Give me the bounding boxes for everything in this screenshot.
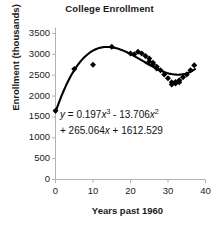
equation-part-4: + 1612.529 [110,125,163,136]
data-points [53,44,198,114]
y-tick-label: 3500 [16,27,50,38]
y-tick-label: 0 [16,173,50,184]
equation-part-2: - 13.706 [110,109,149,120]
x-tick-label: 30 [156,185,180,196]
x-tick-label: 20 [119,185,143,196]
regression-curve [56,47,196,112]
equation-part-3: + 265.064 [60,125,105,136]
equation-part-1: = 0.197 [65,109,101,120]
x-tick-label: 40 [194,185,218,196]
chart-container: College Enrollment Enrollment (thousands… [0,0,219,226]
equation-line-1: y = 0.197x3 - 13.706x2 [60,107,208,123]
y-tick-label: 1500 [16,110,50,121]
y-tick-label: 500 [16,152,50,163]
regression-equation: y = 0.197x3 - 13.706x2 + 265.064x + 1612… [60,107,208,139]
y-tick-label: 2000 [16,90,50,101]
equation-line-2: + 265.064x + 1612.529 [60,123,208,139]
y-tick-label: 3000 [16,48,50,59]
axes [52,28,206,184]
y-tick-label: 1000 [16,131,50,142]
y-tick-label: 2500 [16,69,50,80]
x-tick-label: 10 [81,185,105,196]
x-tick-label: 0 [44,185,68,196]
equation-exponent-2: 2 [155,108,159,115]
